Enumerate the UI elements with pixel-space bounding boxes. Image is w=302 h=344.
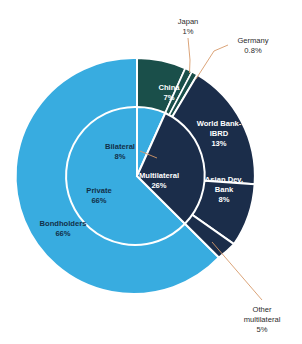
callout-germany-pct: 0.8%: [244, 46, 262, 55]
donut-chart: Bondholders 66% Private 66% Bilateral 8%…: [0, 0, 302, 344]
donut-svg: Bondholders 66% Private 66% Bilateral 8%…: [0, 0, 302, 344]
leader-line-germany: [196, 45, 228, 79]
callout-othermulti-pct: 5%: [257, 325, 268, 334]
label-worldbank-name2: IBRD: [210, 129, 229, 138]
callout-japan-name: Japan: [178, 17, 199, 26]
label-private-name: Private: [86, 186, 111, 195]
callout-japan-pct: 1%: [183, 27, 194, 36]
label-asiandev-name: Asian Dev.: [205, 175, 243, 184]
label-asiandev-pct: 8%: [219, 195, 230, 204]
inner-ring: [66, 107, 205, 245]
label-worldbank-pct: 13%: [211, 139, 226, 148]
leader-line-other-multilateral: [212, 242, 262, 300]
label-china-pct: 7%: [164, 93, 175, 102]
label-multilateral-pct: 26%: [151, 181, 166, 190]
label-multilateral-name: Multilateral: [139, 171, 179, 180]
leader-line-japan: [188, 38, 190, 73]
label-private-pct: 66%: [91, 196, 106, 205]
label-worldbank-name: World Bank-: [197, 119, 242, 128]
callout-othermulti-name2: multilateral: [244, 315, 281, 324]
label-bilateral-pct: 8%: [115, 152, 126, 161]
label-bilateral-name: Bilateral: [105, 142, 135, 151]
label-bondholders-pct: 66%: [55, 229, 70, 238]
label-asiandev-name2: Bank: [215, 185, 234, 194]
callout-othermulti-name: Other: [253, 305, 272, 314]
callout-germany-name: Germany: [237, 36, 268, 45]
label-china-name: China: [158, 83, 180, 92]
label-bondholders-name: Bondholders: [40, 219, 87, 228]
